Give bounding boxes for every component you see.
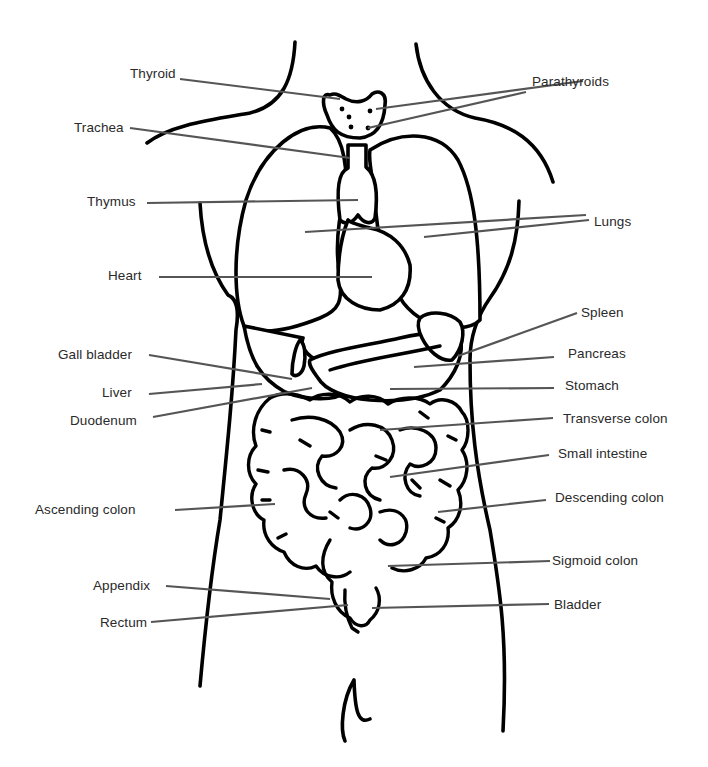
label-heart: Heart [108, 268, 142, 284]
label-descending-colon: Descending colon [555, 490, 664, 506]
label-transverse-colon: Transverse colon [563, 411, 668, 427]
intestines [249, 394, 469, 632]
label-appendix: Appendix [93, 578, 150, 594]
label-duodenum: Duodenum [70, 413, 137, 429]
label-trachea: Trachea [74, 120, 124, 136]
label-pancreas: Pancreas [568, 346, 626, 362]
label-sigmoid-colon: Sigmoid colon [552, 553, 638, 569]
label-lungs: Lungs [594, 214, 631, 230]
anatomy-diagram: Thyroid Trachea Thymus Heart Gall bladde… [0, 0, 708, 767]
label-thyroid: Thyroid [130, 66, 176, 82]
label-thymus: Thymus [87, 194, 136, 210]
label-spleen: Spleen [581, 305, 624, 321]
label-rectum: Rectum [100, 615, 147, 631]
label-liver: Liver [102, 385, 132, 401]
label-bladder: Bladder [554, 597, 601, 613]
label-parathyroids: Parathyroids [532, 74, 609, 90]
label-ascending-colon: Ascending colon [35, 502, 136, 518]
label-stomach: Stomach [565, 378, 619, 394]
label-gall-bladder: Gall bladder [58, 347, 132, 363]
label-small-intestine: Small intestine [558, 446, 647, 462]
